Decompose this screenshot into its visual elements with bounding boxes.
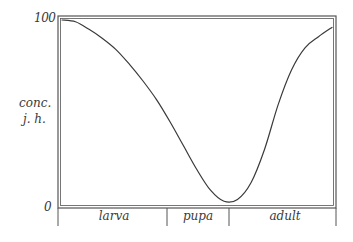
plot-frame bbox=[58, 16, 336, 208]
y-tick-0: 0 bbox=[44, 201, 52, 213]
y-axis-label-line1: conc. bbox=[19, 97, 51, 109]
y-axis-label-line2: j. h. bbox=[23, 113, 46, 125]
jh-concentration-curve bbox=[62, 20, 332, 202]
stage-label-pupa: pupa bbox=[168, 210, 228, 222]
chart bbox=[0, 0, 353, 242]
y-tick-100: 100 bbox=[34, 12, 55, 24]
stage-label-larva: larva bbox=[84, 210, 144, 222]
stage-label-adult: adult bbox=[250, 210, 320, 222]
